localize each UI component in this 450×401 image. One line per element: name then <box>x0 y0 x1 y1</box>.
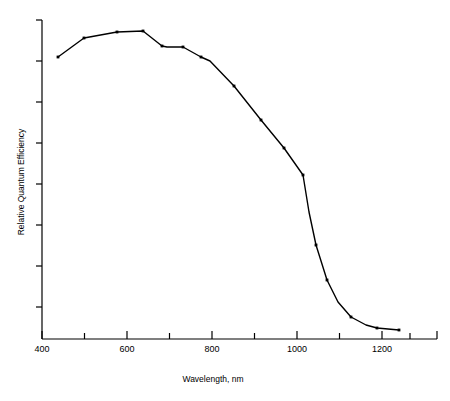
data-curve <box>58 31 399 330</box>
x-tick-label-600: 600 <box>119 344 134 354</box>
x-axis-title: Wavelength, nm <box>182 374 243 384</box>
x-tick-label-1200: 1200 <box>372 344 392 354</box>
x-tick-label-400: 400 <box>34 344 49 354</box>
data-point-markers <box>57 30 401 332</box>
x-axis-major-ticks <box>42 331 382 339</box>
x-tick-label-800: 800 <box>204 344 219 354</box>
y-axis-title: Relative Quantum Efficiency <box>16 128 26 235</box>
spectral-response-chart: 400 600 800 1000 1200 <box>0 0 450 401</box>
x-tick-label-1000: 1000 <box>287 344 307 354</box>
x-axis-minor-ticks <box>85 331 438 339</box>
plot-area: 400 600 800 1000 1200 <box>16 20 437 384</box>
x-axis-tick-labels: 400 600 800 1000 1200 <box>34 344 392 354</box>
y-axis-ticks <box>36 20 42 307</box>
